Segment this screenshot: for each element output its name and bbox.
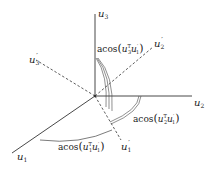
axis-u3-prime	[36, 60, 95, 96]
angle-label-u3-u1p: acos(uT3u′1)	[97, 42, 144, 55]
label-u3: u3	[98, 8, 108, 20]
label-u2-prime: u2′	[154, 36, 164, 50]
label-u3-prime: u3′	[29, 52, 39, 66]
axis-u2-prime	[95, 47, 153, 96]
label-u1-prime: u1′	[121, 139, 131, 153]
label-u1: u1	[17, 151, 27, 163]
label-u2: u2	[194, 97, 204, 109]
axis-u1-prime	[95, 96, 121, 140]
arc-u3-u1p	[96, 58, 112, 111]
origin-point	[94, 95, 97, 98]
angle-label-u2-u1p: acos(uT2u′1)	[133, 112, 180, 125]
angle-label-u1-u1p: acos(uT1u′1)	[58, 140, 105, 153]
coordinate-rotation-diagram: u3 u2 u1 u1′ u2′ u3′ acos(uT3u′1) acos(u…	[0, 0, 213, 176]
